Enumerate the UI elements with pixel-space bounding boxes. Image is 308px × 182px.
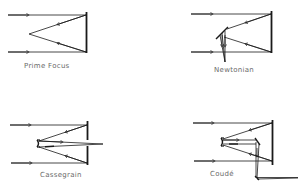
arrow-icon xyxy=(66,125,87,132)
arrow-icon xyxy=(246,44,271,52)
arrow-icon xyxy=(246,14,271,23)
arrow-icon xyxy=(58,43,86,52)
coude-output-ray-b xyxy=(257,178,298,179)
newtonian-diagram xyxy=(191,11,272,62)
arrow-icon xyxy=(66,156,87,163)
prime-focus-label: Prime Focus xyxy=(24,62,70,70)
telescope-focus-diagrams xyxy=(0,0,308,182)
newtonian-label: Newtonian xyxy=(214,66,254,74)
coude-diagram xyxy=(193,120,298,180)
arrow-icon xyxy=(39,141,62,142)
arrow-icon xyxy=(250,123,272,130)
coude-label: Coudé xyxy=(210,170,234,178)
cassegrain-diagram xyxy=(10,121,103,165)
secondary-mirror xyxy=(37,140,39,147)
arrow-icon xyxy=(58,15,86,24)
secondary-mirror xyxy=(221,138,223,146)
arrow-icon xyxy=(250,154,272,161)
cassegrain-label: Cassegrain xyxy=(40,171,82,179)
prime-focus-diagram xyxy=(8,12,87,53)
